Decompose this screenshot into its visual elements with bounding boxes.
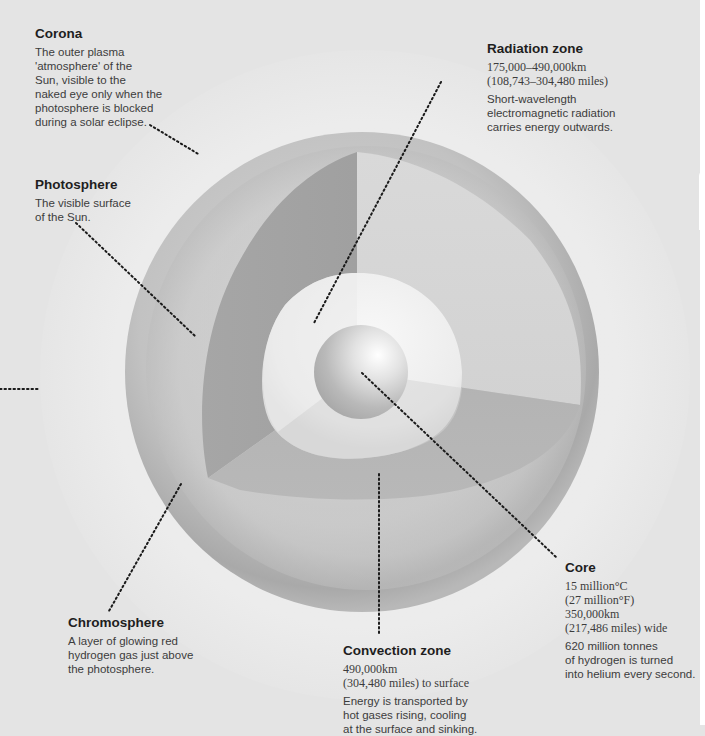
core-line: of hydrogen is turned [565, 653, 705, 667]
chromosphere-line: the photosphere. [68, 662, 218, 676]
core-stat: (217,486 miles) wide [565, 621, 705, 635]
core-stat: 350,000km [565, 607, 705, 621]
leader-chromosphere [109, 484, 181, 611]
label-corona: Corona The outer plasma 'atmosphere' of … [35, 27, 185, 129]
photosphere-title: Photosphere [35, 178, 165, 192]
convection-zone-line: Energy is transported by [343, 694, 503, 708]
corona-line: Sun, visible to the [35, 73, 185, 87]
radiation-zone-stat: 175,000–490,000km [487, 60, 667, 74]
core-line: 620 million tonnes [565, 639, 705, 653]
photosphere-line: The visible surface [35, 196, 165, 210]
corona-line: The outer plasma [35, 45, 185, 59]
photosphere-line: of the Sun. [35, 210, 165, 224]
radiation-zone-line: carries energy outwards. [487, 120, 667, 134]
convection-zone-line: at the surface and sinking. [343, 722, 503, 736]
core-line: into helium every second. [565, 667, 705, 681]
convection-zone-line: hot gases rising, cooling [343, 708, 503, 722]
core-title: Core [565, 561, 705, 575]
corona-line: naked eye only when the [35, 87, 185, 101]
radiation-zone-stat: (108,743–304,480 miles) [487, 74, 667, 88]
label-convection-zone: Convection zone 490,000km (304,480 miles… [343, 644, 503, 736]
label-radiation-zone: Radiation zone 175,000–490,000km (108,74… [487, 42, 667, 134]
convection-zone-stat: (304,480 miles) to surface [343, 676, 503, 690]
core-sphere [314, 325, 408, 419]
convection-zone-stat: 490,000km [343, 662, 503, 676]
radiation-zone-line: Short-wavelength [487, 92, 667, 106]
core-stat: (27 million°F) [565, 593, 705, 607]
corona-line: 'atmosphere' of the [35, 59, 185, 73]
chromosphere-line: hydrogen gas just above [68, 648, 218, 662]
label-core: Core 15 million°C (27 million°F) 350,000… [565, 561, 705, 681]
label-photosphere: Photosphere The visible surface of the S… [35, 178, 165, 224]
label-chromosphere: Chromosphere A layer of glowing red hydr… [68, 616, 218, 676]
chromosphere-title: Chromosphere [68, 616, 218, 630]
corona-line: during a solar eclipse. [35, 115, 185, 129]
corona-title: Corona [35, 27, 185, 41]
convection-zone-title: Convection zone [343, 644, 503, 658]
radiation-zone-line: electromagnetic radiation [487, 106, 667, 120]
leader-corona [150, 125, 200, 155]
radiation-zone-title: Radiation zone [487, 42, 667, 56]
chromosphere-line: A layer of glowing red [68, 634, 218, 648]
core-stat: 15 million°C [565, 579, 705, 593]
corona-line: photosphere is blocked [35, 101, 185, 115]
